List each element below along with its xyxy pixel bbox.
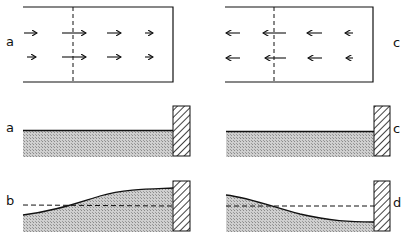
label-bottom-left: b <box>6 194 14 207</box>
label-bottom-right: d <box>393 196 401 209</box>
wall-icon <box>374 106 390 156</box>
label-top-right: c <box>393 36 400 49</box>
profile-panel-b <box>23 181 190 232</box>
wall-icon <box>374 181 390 231</box>
profile-panel-c <box>226 106 390 157</box>
left-arrow-icon <box>226 33 353 58</box>
label-mid-right: c <box>393 122 400 135</box>
wall-icon <box>173 181 190 231</box>
channel-panel-a <box>23 7 173 82</box>
label-top-left: a <box>6 35 14 48</box>
profile-panel-d <box>226 181 390 232</box>
wall-icon <box>173 106 190 156</box>
label-mid-left: a <box>6 121 14 134</box>
right-arrow-icon <box>24 33 153 57</box>
profile-panel-a <box>23 106 190 157</box>
seiche-diagram <box>0 0 406 238</box>
channel-panel-c <box>225 7 373 82</box>
